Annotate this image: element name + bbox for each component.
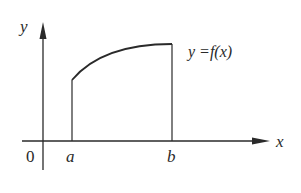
x-axis-arrow-icon [252, 138, 270, 145]
y-axis-label: y [18, 17, 28, 36]
x-axis-label: x [275, 132, 284, 151]
integral-area-diagram: y y =f(x) 0 a b x [0, 0, 301, 193]
function-curve [72, 44, 172, 80]
a-label: a [66, 147, 75, 166]
curve-label: y =f(x) [186, 43, 232, 61]
b-label: b [167, 147, 176, 166]
origin-label: 0 [26, 147, 35, 166]
y-axis-arrow-icon [40, 22, 47, 39]
